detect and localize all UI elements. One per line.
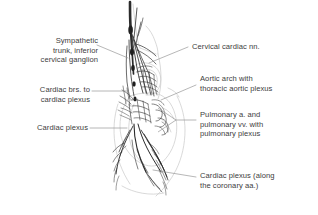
sympathetic-trunk-upper xyxy=(130,2,131,26)
ganglion-node-3 xyxy=(131,65,135,71)
label-cervical-cardiac-nn: Cervical cardiac nn. xyxy=(192,42,312,52)
label-cardiac-plexus: Cardiac plexus xyxy=(10,123,88,133)
label-cardiac-branches: Cardiac brs. to cardiac plexus xyxy=(10,85,90,104)
label-aortic-arch: Aortic arch with thoracic aortic plexus xyxy=(200,74,316,93)
label-pulmonary: Pulmonary a. and pulmonary vv. with pulm… xyxy=(200,110,316,139)
label-cardiac-plexus-coronary: Cardiac plexus (along the coronary aa.) xyxy=(200,171,316,190)
inferior-cervical-ganglion xyxy=(128,26,133,34)
label-sympathetic-trunk: Sympathetic trunk, inferior cervical gan… xyxy=(10,36,98,65)
ganglion-node-4 xyxy=(132,81,135,87)
ganglion-node-2 xyxy=(130,49,134,56)
ganglion-node-5 xyxy=(134,97,137,102)
